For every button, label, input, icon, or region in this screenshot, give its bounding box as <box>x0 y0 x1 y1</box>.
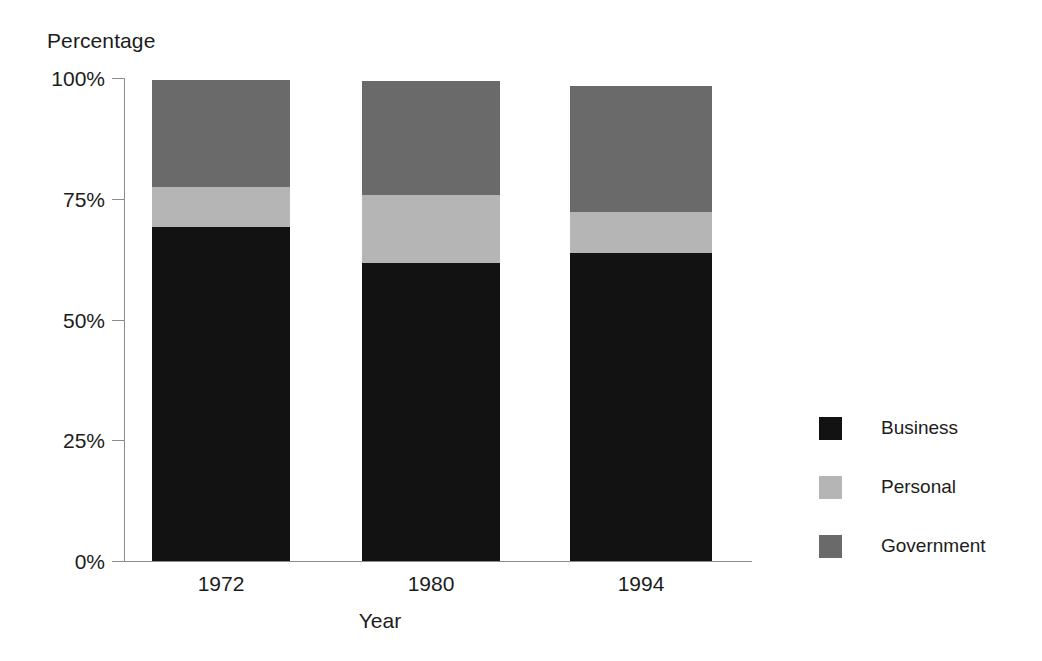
bar-segment-personal <box>152 187 290 227</box>
bar-segment-government <box>362 81 500 195</box>
legend-label: Business <box>881 416 958 440</box>
plot-area <box>124 78 744 561</box>
bar-segment-government <box>570 86 712 212</box>
legend-swatch-personal <box>819 476 842 499</box>
bar-segment-business <box>570 253 712 561</box>
bar-segment-government <box>152 80 290 187</box>
bar-stack <box>362 78 500 561</box>
y-axis-tick-label: 0% <box>35 551 105 572</box>
bar-stack <box>570 78 712 561</box>
y-axis-tick <box>112 440 124 441</box>
legend-label: Government <box>881 534 986 558</box>
y-axis-tick <box>112 320 124 321</box>
legend-label: Personal <box>881 475 956 499</box>
bar-segment-business <box>152 227 290 561</box>
category-axis-line <box>124 561 752 562</box>
y-axis-tick-label: 50% <box>35 310 105 331</box>
x-axis-tick-label: 1972 <box>152 572 290 596</box>
y-axis-tick-label: 75% <box>35 189 105 210</box>
bar-segment-personal <box>570 212 712 253</box>
x-axis-tick-label: 1980 <box>362 572 500 596</box>
bar-segment-business <box>362 263 500 561</box>
y-axis-title: Percentage <box>47 28 155 53</box>
legend-swatch-business <box>819 417 842 440</box>
y-axis-tick-label: 25% <box>35 430 105 451</box>
x-axis-tick-label: 1994 <box>570 572 712 596</box>
x-axis-title: Year <box>0 608 760 633</box>
y-axis-tick <box>112 199 124 200</box>
legend-swatch-government <box>819 535 842 558</box>
y-axis-tick <box>112 78 124 79</box>
bar-segment-personal <box>362 195 500 263</box>
y-axis-tick <box>112 561 124 562</box>
chart-container: Percentage 0%25%50%75%100% 197219801994 … <box>0 0 1042 661</box>
y-axis-tick-label: 100% <box>35 68 105 89</box>
bar-stack <box>152 78 290 561</box>
